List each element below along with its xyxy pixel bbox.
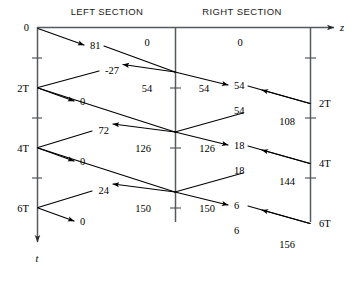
value-right-load-156: 156 — [279, 239, 295, 250]
value-right-cell-150: 150 — [199, 203, 215, 214]
value-right-cell-54: 54 — [199, 83, 210, 94]
value-right-6-up: 6 — [234, 225, 239, 236]
ray-neg27-continue — [38, 71, 99, 88]
left-section-header: LEFT SECTION — [71, 6, 144, 17]
value-left-24: 24 — [99, 185, 110, 196]
time-label-right-4T: 4T — [319, 158, 331, 169]
ray-18-reflect-left — [262, 150, 310, 164]
t-axis-label: t — [36, 253, 40, 264]
ray-54-reflect-left — [262, 90, 310, 104]
lattice-svg: LEFT SECTION RIGHT SECTION z t 0 2T 4T 6… — [0, 0, 360, 286]
value-left-81: 81 — [90, 40, 101, 51]
value-right-18-down: 18 — [234, 140, 245, 151]
value-right-load-144: 144 — [279, 176, 296, 187]
time-label-left-6T: 6T — [17, 203, 29, 214]
z-axis-label: z — [339, 22, 344, 33]
value-right-54-up: 54 — [234, 105, 245, 116]
value-right-6-down: 6 — [234, 200, 239, 211]
value-left-terminal-0-b: 0 — [80, 156, 85, 167]
ray-72-left — [113, 124, 175, 132]
value-left-cell-150: 150 — [135, 203, 151, 214]
ray-6-reflect-left — [262, 210, 310, 224]
value-left-terminal-0-c: 0 — [80, 216, 85, 227]
value-left-neg27: -27 — [105, 65, 119, 76]
value-left-terminal-0-a: 0 — [80, 96, 85, 107]
value-right-54-down: 54 — [234, 80, 245, 91]
ray-zero-c — [38, 208, 74, 221]
value-left-cell-0: 0 — [144, 37, 149, 48]
time-label-right-2T: 2T — [319, 98, 331, 109]
value-right-load-108: 108 — [279, 116, 295, 127]
value-right-18-up: 18 — [234, 165, 245, 176]
value-right-cell-126: 126 — [199, 143, 215, 154]
ray-24-continue — [38, 191, 92, 208]
value-right-cell-0: 0 — [237, 37, 242, 48]
ray-81-right — [38, 29, 84, 46]
value-left-72: 72 — [99, 125, 110, 136]
value-left-cell-126: 126 — [135, 143, 151, 154]
time-label-left-4T: 4T — [17, 143, 29, 154]
right-section-header: RIGHT SECTION — [202, 6, 281, 17]
ray-54-reflect-continue — [175, 113, 243, 132]
ray-neg27-left — [123, 65, 175, 73]
ray-72-continue — [38, 131, 92, 148]
time-label-right-6T: 6T — [319, 218, 331, 229]
time-label-left-0: 0 — [24, 22, 29, 33]
time-label-left-2T: 2T — [17, 83, 29, 94]
bounce-diagram: LEFT SECTION RIGHT SECTION z t 0 2T 4T 6… — [0, 0, 360, 286]
ray-18-reflect-continue — [175, 173, 243, 192]
value-left-cell-54: 54 — [142, 83, 153, 94]
ray-24-left — [113, 184, 175, 192]
